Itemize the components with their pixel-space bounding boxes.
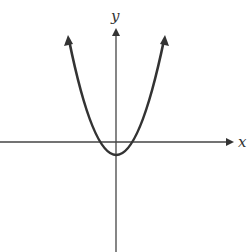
y-axis-label: y <box>110 7 120 25</box>
curve-arrow-right-icon <box>160 35 169 46</box>
parabola-graph: y x <box>0 0 249 252</box>
x-axis-label: x <box>238 133 247 151</box>
curve-arrow-left-icon <box>64 35 73 46</box>
